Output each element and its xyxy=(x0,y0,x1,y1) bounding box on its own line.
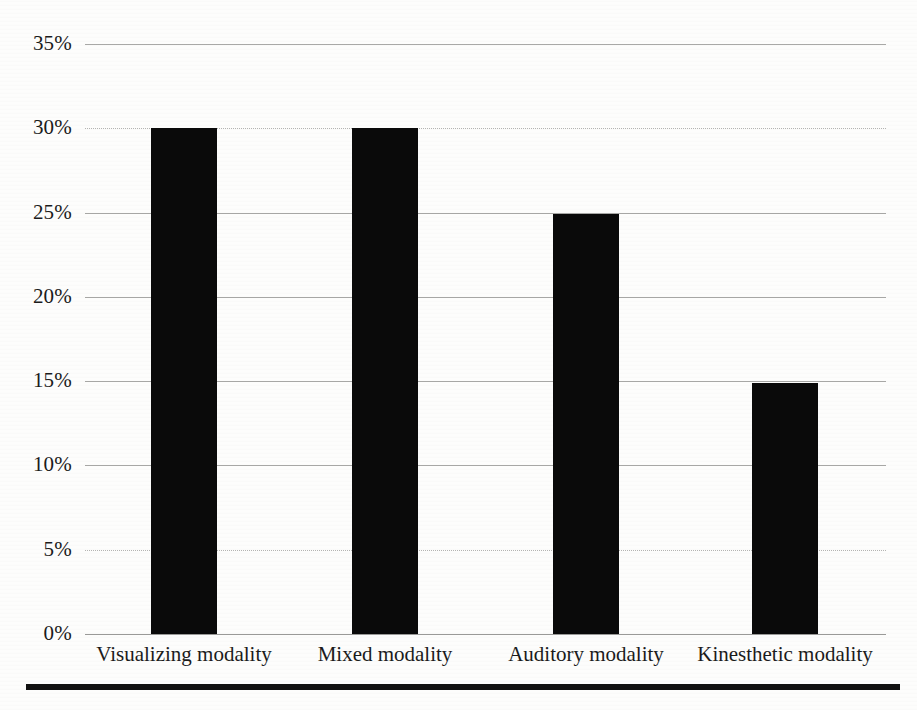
gridline-35 xyxy=(85,44,886,45)
bar xyxy=(553,214,619,634)
x-axis-tick-label: Kinesthetic modality xyxy=(680,643,890,665)
plot-area: 0%5%10%15%20%25%30%35% Visualizing modal… xyxy=(0,0,917,710)
y-axis-tick-label: 25% xyxy=(2,202,72,223)
y-axis-tick-label: 20% xyxy=(2,286,72,307)
footer-rule xyxy=(26,684,900,690)
x-axis-tick-label: Auditory modality xyxy=(481,643,691,665)
bar-chart-figure: 0%5%10%15%20%25%30%35% Visualizing modal… xyxy=(0,0,917,710)
y-axis-tick-label: 10% xyxy=(2,454,72,475)
bar xyxy=(352,128,418,634)
y-axis-tick-label: 15% xyxy=(2,370,72,391)
x-axis-tick-label: Mixed modality xyxy=(280,643,490,665)
bar xyxy=(752,383,818,634)
y-axis-tick-label: 0% xyxy=(2,623,72,644)
y-axis-tick-label: 30% xyxy=(2,117,72,138)
y-axis-tick-label: 5% xyxy=(2,539,72,560)
y-axis-tick-label: 35% xyxy=(2,33,72,54)
x-axis-tick-label: Visualizing modality xyxy=(79,643,289,665)
x-axis-line xyxy=(85,634,886,635)
bar xyxy=(151,128,217,634)
